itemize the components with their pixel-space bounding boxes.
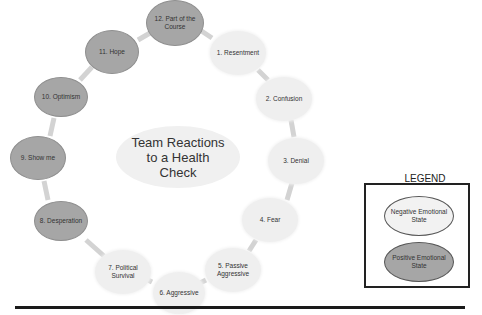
node-label: 9. Show me	[21, 154, 55, 162]
node-label: 3. Denial	[283, 157, 309, 165]
node-label: 11. Hope	[99, 48, 125, 56]
node-label: 10. Optimism	[42, 93, 80, 101]
node-label: 1. Resentment	[217, 49, 259, 57]
legend-positive-swatch: Positive Emotional State	[384, 242, 454, 282]
title-line-1: Team Reactions	[131, 135, 224, 150]
node-label: 5. Passive Aggressive	[209, 262, 257, 278]
connector-9-10	[50, 118, 54, 136]
title-line-2: to a Health	[131, 150, 224, 165]
node-resentment: 1. Resentment	[210, 31, 266, 75]
legend-negative-swatch: Negative Emotional State	[384, 196, 454, 236]
node-show-me: 9. Show me	[10, 136, 66, 180]
node-label: 8. Desperation	[40, 217, 82, 225]
node-hope: 11. Hope	[85, 30, 139, 74]
node-part-of-the-course: 12. Part of the Course	[146, 0, 204, 46]
connector-2-3	[291, 120, 294, 137]
connector-3-4	[287, 183, 292, 200]
connector-10-11	[80, 67, 92, 80]
title-line-3: Check	[131, 165, 224, 180]
bottom-divider	[15, 306, 465, 309]
connector-8-9	[44, 181, 48, 200]
node-fear: 4. Fear	[242, 198, 298, 242]
node-optimism: 10. Optimism	[34, 77, 88, 117]
connector-7-8	[86, 240, 104, 256]
diagram-title: Team Reactions to a Health Check	[116, 126, 240, 188]
node-label: 6. Aggressive	[159, 289, 198, 297]
node-label: 2. Confusion	[266, 95, 303, 103]
node-confusion: 2. Confusion	[256, 77, 312, 121]
node-desperation: 8. Desperation	[34, 201, 88, 241]
legend-positive-label: Positive Emotional State	[385, 254, 453, 270]
node-label: 12. Part of the Course	[151, 15, 199, 31]
connector-11-12	[138, 33, 150, 40]
legend-box: Negative Emotional State Positive Emotio…	[364, 183, 470, 288]
node-denial: 3. Denial	[268, 138, 324, 184]
node-passive-aggressive: 5. Passive Aggressive	[205, 248, 261, 292]
node-label: 7. Political Survival	[99, 264, 147, 280]
node-political-survival: 7. Political Survival	[95, 250, 151, 294]
connector-4-5	[249, 240, 256, 251]
legend-negative-label: Negative Emotional State	[385, 208, 453, 224]
node-label: 4. Fear	[260, 216, 281, 224]
connector-1-2	[258, 70, 268, 80]
